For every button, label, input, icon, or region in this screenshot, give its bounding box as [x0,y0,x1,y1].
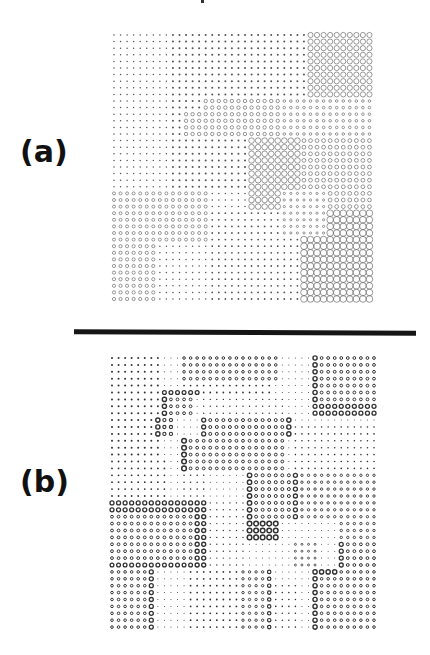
grid-dot [308,385,309,386]
grid-dot [210,489,211,490]
grid-circle [307,502,309,504]
grid-dot [295,440,297,442]
grid-circle [255,371,258,374]
grid-dot [340,454,342,456]
grid-dot [137,426,139,428]
grid-dot [210,399,211,400]
grid-dot [301,426,303,428]
grid-dot [229,530,230,531]
grid-circle [373,384,376,387]
grid-dot [124,385,126,387]
grid-circle [182,508,186,512]
grid-circle [117,591,120,594]
grid-dot [282,385,283,386]
grid-dot [242,516,243,517]
grid-circle [327,578,330,581]
grid-circle [313,597,317,601]
grid-dot [164,358,165,359]
grid-circle [235,460,238,463]
grid-circle [340,495,342,497]
grid-circle [360,364,363,367]
grid-circle [327,481,329,483]
grid-circle [340,605,343,608]
grid-circle [111,584,114,587]
grid-dot [295,468,297,470]
grid-dot [216,489,217,490]
grid-dot [236,537,237,538]
grid-dot [196,606,198,608]
grid-circle [313,370,317,374]
grid-dot [354,433,356,435]
grid-dot [295,413,296,414]
grid-dot [236,619,238,621]
grid-dot [223,544,224,545]
grid-circle [149,611,153,615]
grid-circle [137,598,140,601]
grid-dot [144,371,146,373]
grid-circle [117,529,120,532]
grid-dot [197,427,198,428]
grid-circle [229,446,232,449]
grid-dot [222,606,224,608]
grid-circle [340,619,343,622]
grid-circle [340,529,342,531]
grid-dot [295,371,296,372]
grid-dot [118,495,120,497]
grid-dot [256,551,257,552]
grid-dot [328,523,329,524]
grid-circle [189,357,192,360]
grid-dot [334,558,335,559]
grid-dot [262,392,264,394]
grid-circle [353,391,356,394]
grid-circle [242,432,245,435]
grid-dot [124,357,126,359]
grid-dot [197,399,198,400]
grid-circle [124,550,127,553]
grid-circle [346,543,349,546]
grid-circle [268,612,271,615]
grid-circle [314,509,316,511]
grid-dot [157,405,159,407]
grid-dot [373,454,375,456]
grid-circle [124,529,127,532]
grid-dot [203,399,204,400]
grid-dot [124,495,126,497]
grid-circle [287,481,290,484]
grid-circle [347,495,349,497]
grid-dot [170,364,171,365]
grid-circle [202,453,205,456]
grid-dot [131,412,133,414]
grid-dot [373,447,375,449]
grid-dot [150,447,152,449]
grid-circle [268,495,271,498]
grid-dot [288,392,289,393]
grid-dot [367,468,369,470]
grid-circle [169,391,173,395]
grid-circle [202,364,205,367]
grid-circle [189,529,192,532]
grid-circle [149,598,153,602]
grid-circle [360,529,362,531]
grid-circle [195,501,199,505]
grid-circle [346,411,350,415]
grid-circle [143,563,147,567]
grid-circle [313,397,317,401]
grid-dot [334,523,335,524]
grid-dot [223,557,224,558]
grid-dot [137,488,139,490]
grid-dot [203,495,205,497]
grid-dot [295,420,296,421]
grid-dot [268,392,270,394]
grid-circle [347,509,349,511]
grid-circle [320,584,323,587]
grid-dot [223,399,224,400]
grid-dot [170,571,171,572]
grid-dot [301,433,303,435]
grid-dot [210,551,211,552]
grid-circle [130,626,133,629]
grid-circle [247,521,252,526]
grid-dot [236,392,238,394]
grid-dot [347,440,349,442]
grid-dot [203,578,205,580]
grid-dot [157,398,159,400]
